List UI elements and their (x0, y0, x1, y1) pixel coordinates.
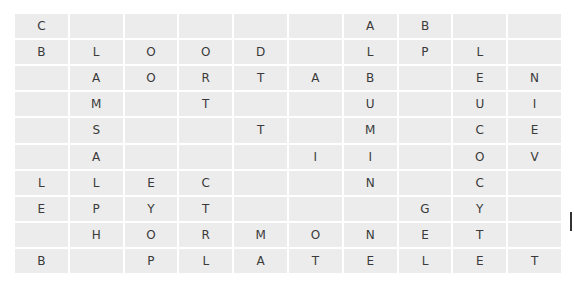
grid-cell[interactable]: Y (125, 197, 178, 221)
grid-cell[interactable]: E (508, 118, 561, 142)
grid-cell[interactable]: I (344, 145, 397, 169)
grid-cell[interactable] (289, 118, 342, 142)
grid-cell[interactable] (289, 92, 342, 116)
grid-cell[interactable] (508, 223, 561, 247)
grid-cell[interactable] (508, 14, 561, 38)
grid-cell[interactable]: N (344, 171, 397, 195)
grid-cell[interactable]: H (70, 223, 123, 247)
grid-cell[interactable]: T (234, 118, 287, 142)
grid-cell[interactable]: E (15, 197, 68, 221)
grid-cell[interactable]: M (234, 223, 287, 247)
grid-cell[interactable]: A (234, 249, 287, 273)
grid-cell[interactable] (234, 197, 287, 221)
grid-cell[interactable]: B (15, 40, 68, 64)
grid-cell[interactable] (125, 145, 178, 169)
grid-cell[interactable]: C (453, 118, 506, 142)
grid-cell[interactable] (234, 92, 287, 116)
grid-cell[interactable] (15, 92, 68, 116)
grid-cell[interactable]: R (179, 223, 232, 247)
grid-cell[interactable]: P (399, 40, 452, 64)
grid-cell[interactable]: B (15, 249, 68, 273)
grid-cell[interactable] (508, 197, 561, 221)
grid-cell[interactable]: M (344, 118, 397, 142)
grid-cell[interactable] (125, 118, 178, 142)
grid-cell[interactable]: I (289, 145, 342, 169)
grid-cell[interactable]: Y (453, 197, 506, 221)
grid-cell[interactable]: A (70, 145, 123, 169)
grid-cell[interactable] (289, 171, 342, 195)
grid-cell[interactable]: L (15, 171, 68, 195)
grid-cell[interactable] (399, 92, 452, 116)
grid-cell[interactable]: T (453, 223, 506, 247)
grid-cell[interactable] (70, 249, 123, 273)
grid-cell[interactable]: L (179, 249, 232, 273)
grid-cell[interactable]: C (453, 171, 506, 195)
grid-cell[interactable] (179, 145, 232, 169)
grid-cell[interactable]: E (344, 249, 397, 273)
grid-cell[interactable]: S (70, 118, 123, 142)
grid-cell[interactable]: O (453, 145, 506, 169)
grid-cell[interactable]: G (399, 197, 452, 221)
grid-cell[interactable] (399, 66, 452, 90)
grid-cell[interactable]: N (508, 66, 561, 90)
grid-cell[interactable]: T (179, 197, 232, 221)
grid-cell[interactable] (15, 118, 68, 142)
grid-cell[interactable]: C (179, 171, 232, 195)
grid-cell[interactable] (179, 14, 232, 38)
grid-cell[interactable]: E (453, 66, 506, 90)
grid-cell[interactable] (289, 197, 342, 221)
grid-cell[interactable]: R (179, 66, 232, 90)
grid-cell[interactable]: P (70, 197, 123, 221)
grid-cell[interactable]: T (289, 249, 342, 273)
grid-cell[interactable]: O (125, 40, 178, 64)
grid-cell[interactable]: O (125, 66, 178, 90)
grid-cell[interactable]: D (234, 40, 287, 64)
grid-cell[interactable]: C (15, 14, 68, 38)
grid-cell[interactable] (179, 118, 232, 142)
grid-cell[interactable]: L (453, 40, 506, 64)
grid-cell[interactable]: E (125, 171, 178, 195)
grid-cell[interactable] (234, 145, 287, 169)
grid-cell[interactable]: N (344, 223, 397, 247)
grid-cell[interactable]: L (399, 249, 452, 273)
grid-cell[interactable]: O (179, 40, 232, 64)
grid-cell[interactable] (15, 145, 68, 169)
grid-cell[interactable]: L (70, 171, 123, 195)
grid-cell[interactable]: B (399, 14, 452, 38)
grid-cell[interactable]: T (508, 249, 561, 273)
grid-cell[interactable]: T (179, 92, 232, 116)
grid-cell[interactable]: A (70, 66, 123, 90)
grid-cell[interactable]: L (344, 40, 397, 64)
grid-cell[interactable]: V (508, 145, 561, 169)
grid-cell[interactable]: M (70, 92, 123, 116)
grid-cell[interactable]: T (234, 66, 287, 90)
grid-cell[interactable] (125, 14, 178, 38)
grid-cell[interactable]: B (344, 66, 397, 90)
grid-cell[interactable]: P (125, 249, 178, 273)
grid-cell[interactable]: A (289, 66, 342, 90)
grid-cell[interactable] (289, 40, 342, 64)
grid-cell[interactable]: E (453, 249, 506, 273)
grid-cell[interactable] (344, 197, 397, 221)
grid-cell[interactable] (399, 171, 452, 195)
grid-cell[interactable]: O (125, 223, 178, 247)
grid-cell[interactable] (399, 145, 452, 169)
grid-cell[interactable] (234, 171, 287, 195)
grid-cell[interactable] (289, 14, 342, 38)
grid-cell[interactable] (453, 14, 506, 38)
grid-cell[interactable]: E (399, 223, 452, 247)
grid-cell[interactable] (508, 40, 561, 64)
grid-cell[interactable] (125, 92, 178, 116)
grid-cell[interactable] (15, 66, 68, 90)
grid-cell[interactable]: I (508, 92, 561, 116)
grid-cell[interactable]: U (344, 92, 397, 116)
grid-cell[interactable] (70, 14, 123, 38)
grid-cell[interactable]: L (70, 40, 123, 64)
grid-cell[interactable] (508, 171, 561, 195)
grid-cell[interactable] (399, 118, 452, 142)
grid-cell[interactable] (234, 14, 287, 38)
grid-cell[interactable]: U (453, 92, 506, 116)
grid-cell[interactable]: O (289, 223, 342, 247)
grid-cell[interactable]: A (344, 14, 397, 38)
grid-cell[interactable] (15, 223, 68, 247)
